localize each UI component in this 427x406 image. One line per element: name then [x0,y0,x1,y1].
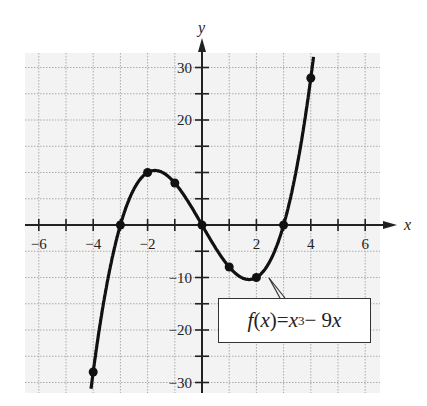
svg-text:2: 2 [253,236,261,252]
svg-text:4: 4 [307,236,315,252]
svg-text:−20: −20 [169,322,192,338]
data-point [143,168,152,177]
svg-text:−30: −30 [169,375,192,391]
svg-text:30: 30 [177,60,192,76]
svg-text:6: 6 [361,236,369,252]
data-point [306,74,315,83]
svg-text:−2: −2 [140,236,156,252]
svg-text:−4: −4 [85,236,101,252]
data-point [170,179,179,188]
cubic-function-chart: −6−4−22463020−10−20−30xy [0,0,427,406]
data-point [279,221,288,230]
svg-text:20: 20 [177,112,192,128]
svg-text:−10: −10 [169,270,192,286]
svg-text:−6: −6 [31,236,47,252]
svg-text:x: x [403,216,411,233]
svg-text:y: y [196,19,206,37]
data-point [89,368,98,377]
data-point [252,273,261,282]
data-point [225,263,234,272]
function-label: f(x) = x3 − 9x [218,298,371,343]
data-point [198,221,207,230]
data-point [116,221,125,230]
